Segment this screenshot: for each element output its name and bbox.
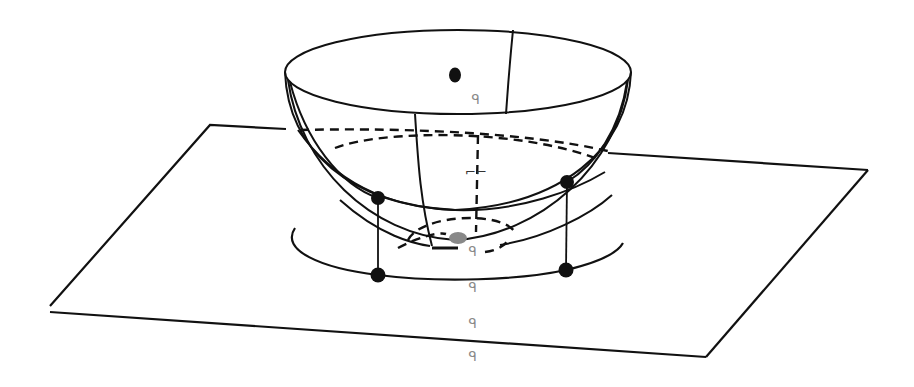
label-bottom-3: ᑫ [469, 318, 477, 330]
focus-spot [449, 232, 467, 244]
hemisphere [285, 30, 631, 248]
point-rim-right [560, 175, 574, 189]
label-bottom-1: ᑫ [469, 246, 477, 258]
label-mid: ⌐⌐ [465, 166, 487, 178]
point-rim-left [371, 191, 385, 205]
label-bottom-2: ᑫ [469, 282, 477, 294]
projection-lines [378, 182, 567, 275]
point-base-left [371, 268, 386, 283]
point-base-right [559, 263, 574, 278]
label-bottom-4: ᑫ [469, 351, 477, 363]
diagram-canvas [0, 0, 914, 387]
point-top-center [449, 68, 461, 83]
label-top: ᑫ [472, 94, 480, 106]
